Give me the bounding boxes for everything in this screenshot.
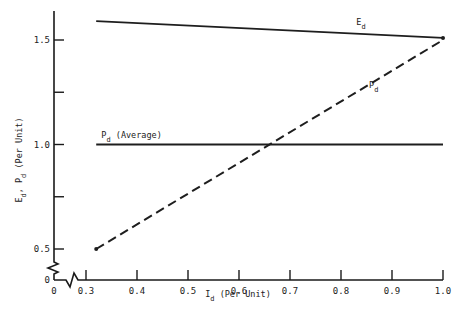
- x-tick-label: 1.0: [435, 286, 451, 296]
- x-tick-label: 0.7: [282, 286, 298, 296]
- series-labels: EdPdPd (Average): [101, 17, 378, 144]
- series-label-p-d: Pd: [369, 80, 378, 94]
- series-point-p-d: [94, 247, 98, 251]
- series-point-e-d: [441, 36, 445, 40]
- x-axis-line: [54, 273, 443, 287]
- x-tick-label: 0.4: [129, 286, 145, 296]
- x-origin-label: 0: [51, 286, 56, 296]
- y-ticks: 0.51.01.50: [34, 35, 64, 285]
- y-tick-label: 0.5: [34, 244, 50, 254]
- chart: 0.30.40.50.60.70.80.91.00 0.51.01.50 EdP…: [0, 0, 462, 324]
- y-tick-label: 1.5: [34, 35, 50, 45]
- x-tick-label: 0.5: [180, 286, 196, 296]
- x-tick-label: 0.3: [78, 286, 94, 296]
- y-origin-label: 0: [45, 275, 50, 285]
- axes: [48, 11, 443, 287]
- series-label-e-d: Ed: [356, 17, 365, 31]
- series-label-p-d-average: Pd (Average): [101, 130, 162, 144]
- x-tick-label: 0.9: [384, 286, 400, 296]
- x-axis-label: Id (Per Unit): [205, 289, 271, 303]
- series-line-e-d: [96, 21, 443, 38]
- y-axis-label: Ed, Pd (Per Unit): [14, 117, 28, 202]
- x-tick-label: 0.8: [333, 286, 349, 296]
- y-tick-label: 1.0: [34, 140, 50, 150]
